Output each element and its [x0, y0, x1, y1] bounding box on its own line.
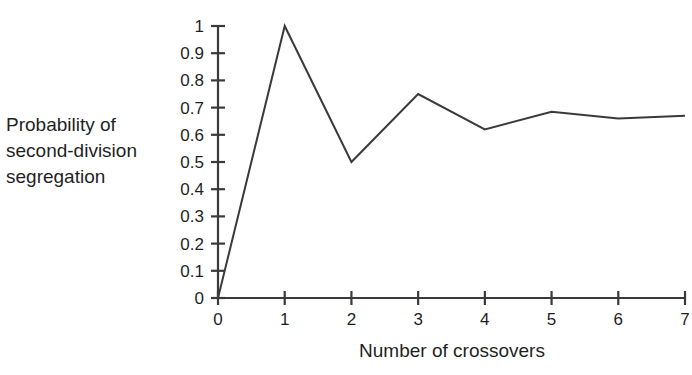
- line-chart-plot: 00.10.20.30.40.50.60.70.80.91 01234567: [0, 0, 692, 375]
- x-axis-tick-label: 4: [480, 310, 489, 329]
- chart-figure: Probability of second-division segregati…: [0, 0, 692, 375]
- x-axis-tick-label: 2: [347, 310, 356, 329]
- x-axis-tick-label: 3: [413, 310, 422, 329]
- y-axis-tick-label: 0.9: [180, 44, 204, 63]
- y-axis: 00.10.20.30.40.50.60.70.80.91: [180, 17, 225, 308]
- x-axis-tick-label: 1: [280, 310, 289, 329]
- y-axis-tick-label: 0.7: [180, 99, 204, 118]
- y-axis-tick-label: 0.6: [180, 126, 204, 145]
- x-axis-tick-label: 5: [547, 310, 556, 329]
- series-line: [218, 26, 685, 298]
- y-axis-tick-label: 0.3: [180, 207, 204, 226]
- y-axis-tick-label: 0.5: [180, 153, 204, 172]
- data-series: [218, 26, 685, 298]
- y-axis-tick-label: 0: [195, 289, 204, 308]
- y-axis-tick-label: 0.2: [180, 235, 204, 254]
- x-axis-tick-label: 0: [213, 310, 222, 329]
- x-axis-title: Number of crossovers: [218, 340, 686, 362]
- y-axis-tick-label: 0.1: [180, 262, 204, 281]
- y-axis-tick-label: 0.4: [180, 180, 204, 199]
- y-axis-tick-label: 1: [195, 17, 204, 36]
- x-axis: 01234567: [213, 291, 689, 329]
- x-axis-tick-label: 6: [614, 310, 623, 329]
- x-axis-tick-label: 7: [680, 310, 689, 329]
- y-axis-tick-label: 0.8: [180, 71, 204, 90]
